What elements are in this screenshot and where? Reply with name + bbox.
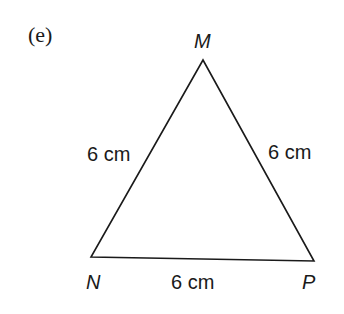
part-label: (e) bbox=[28, 24, 52, 46]
vertex-label-n: N bbox=[86, 272, 100, 292]
vertex-label-m: M bbox=[194, 31, 211, 51]
equilateral-triangle-diagram: (e) M N P 6 cm 6 cm 6 cm bbox=[0, 0, 344, 314]
side-label-mn: 6 cm bbox=[87, 144, 130, 164]
side-label-mp: 6 cm bbox=[268, 142, 311, 162]
vertex-label-p: P bbox=[302, 272, 315, 292]
side-label-np: 6 cm bbox=[171, 272, 214, 292]
